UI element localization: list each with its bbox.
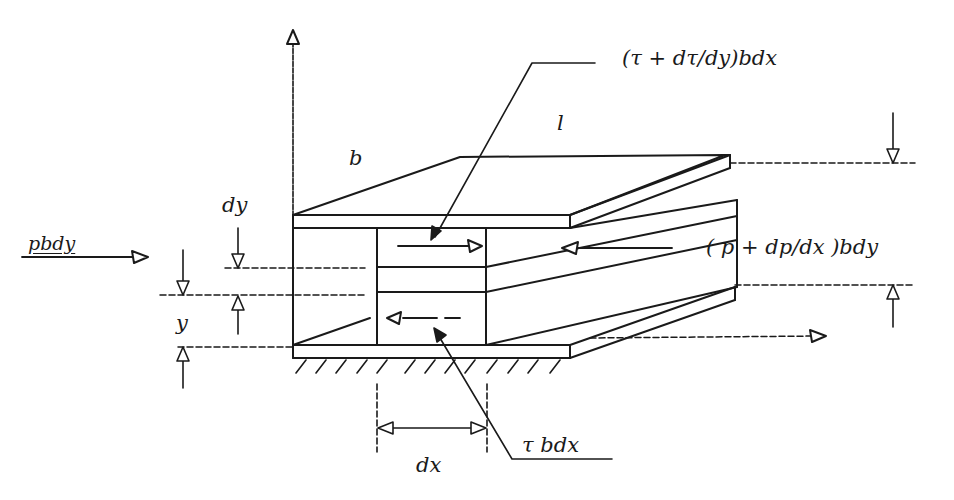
y-down-arrowhead-icon <box>177 281 189 295</box>
x-axis-arrowhead-icon <box>810 330 826 342</box>
pressure-left-arrowhead-icon <box>132 251 148 263</box>
shear-bottom-arrowhead-icon <box>387 312 401 324</box>
dx-right-arrowhead-icon <box>471 422 486 434</box>
dy-down-arrowhead-icon <box>232 254 244 268</box>
shear-top-arrowhead-icon <box>468 240 482 252</box>
y-axis-arrowhead-icon <box>287 30 299 44</box>
ground-hatching <box>296 360 560 373</box>
leader-bottom-arrowhead-icon <box>434 328 446 342</box>
y-up-arrowhead-icon <box>177 347 189 361</box>
gap-down-arrowhead-icon <box>887 149 899 163</box>
label-pressure-left: pbdy <box>28 234 75 253</box>
gap-dimension <box>887 113 899 327</box>
label-dx: dx <box>416 455 441 476</box>
gap-up-arrowhead-icon <box>887 285 899 299</box>
label-pressure-right: ( p + dp/dx )bdy <box>706 237 878 258</box>
label-shear-top: (τ + dτ/dy)bdx <box>622 48 777 69</box>
label-length-l: l <box>557 113 564 134</box>
label-y: y <box>176 313 188 334</box>
dx-left-arrowhead-icon <box>378 422 393 434</box>
dy-dimension <box>232 228 244 334</box>
dy-up-arrowhead-icon <box>232 296 244 310</box>
label-shear-bottom: τ bdx <box>522 435 579 456</box>
leader-shear-top <box>431 63 595 240</box>
dx-dimension <box>377 384 487 452</box>
shear-arrows <box>387 240 482 324</box>
label-width-b: b <box>349 148 362 169</box>
label-dy: dy <box>222 195 247 216</box>
pressure-right-arrow <box>562 242 672 254</box>
pressure-right-arrowhead-icon <box>562 242 578 254</box>
